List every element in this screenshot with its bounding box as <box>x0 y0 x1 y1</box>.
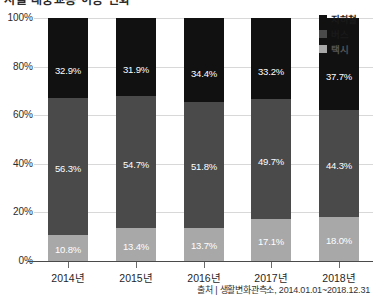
bar-segment-value-label: 54.7% <box>123 159 149 170</box>
x-axis-tick <box>136 262 137 268</box>
y-axis-tick-label: 20% <box>1 207 33 217</box>
cropped-title-strip: 서울 대중교통 이용 변화 <box>0 0 373 9</box>
bar-segment[interactable]: 32.9% <box>48 18 88 98</box>
bar-segment-value-label: 18.0% <box>326 235 352 246</box>
bar-segment[interactable]: 13.7% <box>184 228 224 261</box>
bar-segment-value-label: 34.4% <box>191 68 217 79</box>
x-axis-tick <box>271 262 272 268</box>
x-axis-line <box>28 261 373 262</box>
legend-item[interactable]: 버스 <box>319 27 371 40</box>
legend-swatch-icon <box>319 30 327 38</box>
bar-segment-value-label: 32.9% <box>55 65 81 76</box>
bar-segment[interactable]: 31.9% <box>116 18 156 96</box>
bar-segment-value-label: 33.2% <box>258 66 284 77</box>
bar-group[interactable]: 17.1%49.7%33.2% <box>251 18 291 261</box>
bar-segment-value-label: 13.4% <box>123 241 149 252</box>
bar-segment-value-label: 49.7% <box>258 156 284 167</box>
bar-segment-value-label: 44.3% <box>326 160 352 171</box>
legend-item-label: 택시 <box>331 42 348 56</box>
bar-segment[interactable]: 44.3% <box>319 110 359 218</box>
y-axis-tick-label: 60% <box>1 110 33 120</box>
bar-segment-value-label: 31.9% <box>123 64 149 75</box>
legend-item-label: 지하철 <box>331 12 357 26</box>
bar-segment-value-label: 37.7% <box>326 71 352 82</box>
bar-segment-value-label: 10.8% <box>55 244 81 255</box>
legend-swatch-icon <box>319 45 327 53</box>
bar-group[interactable]: 10.8%56.3%32.9% <box>48 18 88 261</box>
x-axis-tick <box>68 262 69 268</box>
legend-item-label: 버스 <box>331 27 348 41</box>
bar-group[interactable]: 13.7%51.8%34.4% <box>184 18 224 261</box>
bar-segment[interactable]: 51.8% <box>184 102 224 228</box>
x-axis-tick <box>204 262 205 268</box>
bar-segment[interactable]: 34.4% <box>184 18 224 102</box>
bar-segment[interactable]: 54.7% <box>116 96 156 229</box>
bar-segment[interactable]: 33.2% <box>251 18 291 99</box>
legend-item[interactable]: 지하철 <box>319 12 371 25</box>
bar-segment[interactable]: 49.7% <box>251 99 291 220</box>
bar-group[interactable]: 13.4%54.7%31.9% <box>116 18 156 261</box>
legend-item[interactable]: 택시 <box>319 42 371 55</box>
legend-swatch-icon <box>319 15 327 23</box>
bar-segment[interactable]: 17.1% <box>251 219 291 261</box>
bar-segment-value-label: 17.1% <box>258 236 284 247</box>
x-axis-tick-label: 2015년 <box>101 270 171 285</box>
y-axis-tick-label: 100% <box>1 13 33 23</box>
y-axis-tick-label: 40% <box>1 159 33 169</box>
bar-segment[interactable]: 18.0% <box>319 217 359 261</box>
x-axis-tick <box>339 262 340 268</box>
cropped-title-text: 서울 대중교통 이용 변화 <box>4 0 131 7</box>
source-note: 출처 | 생활변화관측소, 2014.01.01~2018.12.31 <box>197 283 370 296</box>
bar-segment[interactable]: 10.8% <box>48 235 88 261</box>
y-axis-tick-label: 80% <box>1 62 33 72</box>
chart-legend: 지하철버스택시 <box>319 12 371 57</box>
bar-segment[interactable]: 13.4% <box>116 228 156 261</box>
x-axis-tick-label: 2014년 <box>33 270 103 285</box>
bar-segment[interactable]: 56.3% <box>48 98 88 235</box>
bar-segment-value-label: 13.7% <box>191 240 217 251</box>
bar-segment-value-label: 56.3% <box>55 163 81 174</box>
bar-segment-value-label: 51.8% <box>191 161 217 172</box>
